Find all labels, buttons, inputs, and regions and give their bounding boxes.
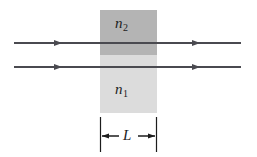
upper-medium-label: n2: [115, 16, 128, 33]
upper-medium-label-subscript: 2: [123, 22, 128, 33]
slab-upper-region: [100, 10, 157, 55]
lower-medium-label-subscript: 1: [123, 88, 128, 99]
lower-medium-label-base: n: [115, 81, 123, 97]
thickness-label: L: [123, 128, 131, 143]
lower-medium-label: n1: [115, 82, 128, 99]
upper-medium-label-base: n: [115, 15, 123, 31]
optics-figure: n2 n1 L: [0, 0, 257, 157]
